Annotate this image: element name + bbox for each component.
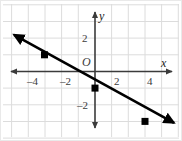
graph-canvas	[0, 0, 182, 141]
data-point	[41, 51, 48, 58]
x-tick-label-neg4: –4	[27, 76, 38, 87]
x-axis-label: x	[161, 57, 166, 69]
coordinate-plane-figure: –4 –2 2 4 2 –2 O x y	[0, 0, 182, 141]
x-tick-label-neg2: –2	[60, 76, 71, 87]
data-point	[142, 118, 149, 125]
origin-label: O	[82, 56, 91, 68]
x-tick-label-4: 4	[147, 76, 153, 87]
data-point	[92, 85, 99, 92]
y-tick-label-neg2: –2	[77, 100, 88, 111]
y-axis-label: y	[99, 10, 104, 22]
y-tick-label-2: 2	[82, 33, 88, 44]
x-tick-label-2: 2	[114, 76, 120, 87]
